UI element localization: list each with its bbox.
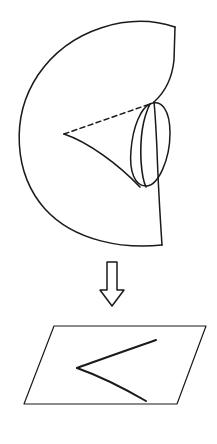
cusp-edge-hidden-dashed bbox=[64, 104, 150, 134]
surface-right-edge bbox=[154, 27, 175, 102]
fold-crease-upper bbox=[141, 104, 150, 187]
cusp-catastrophe-figure bbox=[0, 0, 217, 444]
cusp-edge-visible-lower bbox=[64, 134, 140, 187]
surface-outer-boundary bbox=[19, 22, 175, 246]
projection-arrow bbox=[100, 262, 124, 306]
cusp-curve-lower-branch bbox=[77, 368, 146, 401]
plane-parallelogram bbox=[24, 326, 206, 404]
cusp-surface-3d bbox=[19, 22, 175, 246]
cusp-curve-upper-branch bbox=[77, 340, 156, 368]
projection-plane bbox=[24, 326, 206, 404]
fold-loop bbox=[131, 103, 170, 186]
figure-root bbox=[0, 0, 217, 444]
down-arrow-icon bbox=[100, 262, 124, 306]
